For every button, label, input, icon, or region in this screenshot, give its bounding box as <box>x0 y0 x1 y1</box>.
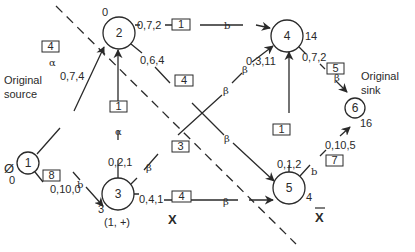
box-label-e56: 7 <box>331 154 337 166</box>
potential-node-4: 14 <box>305 30 317 42</box>
state-e13: b <box>77 179 83 190</box>
potential-node-5: 4 <box>306 191 312 203</box>
state-e56: b <box>311 166 317 177</box>
node-1-label: 1 <box>25 156 32 170</box>
edge-1-2 <box>37 47 104 154</box>
node-1-mark: Ø <box>4 161 14 176</box>
cut-line <box>56 6 296 244</box>
cut-set-x: X <box>168 212 177 227</box>
box-label-e12: 4 <box>47 40 53 52</box>
node-3-label-plus: (1, +) <box>104 216 130 228</box>
state-e32: α <box>115 126 122 137</box>
node-3-label: 3 <box>115 187 122 201</box>
triple-e13: 0,10,0 <box>50 183 81 195</box>
triple-e35: 0,4,1 <box>139 193 163 205</box>
state-e12: α <box>49 57 56 68</box>
edge-5-6 <box>300 127 350 176</box>
source-caption-line2: source <box>4 88 37 100</box>
potential-node-3: 3 <box>98 203 104 215</box>
sink-caption-line1: Original <box>361 70 399 82</box>
source-caption-line1: Original <box>4 74 42 86</box>
box-label-e13: 8 <box>48 169 54 181</box>
cut-set-xbar: X <box>315 210 324 225</box>
triple-e25: 0,6,4 <box>140 54 164 66</box>
sink-caption-line2: sink <box>361 84 381 96</box>
box-label-e25: 4 <box>181 74 187 86</box>
node-2-label: 2 <box>116 26 123 40</box>
box-label-e35: 4 <box>178 190 184 202</box>
box-label-e34: 3 <box>177 140 183 152</box>
state-e34-near3: β <box>146 162 152 173</box>
box-label-e24: 1 <box>178 18 184 30</box>
state-e46: β <box>334 72 340 83</box>
box-label-e54: 1 <box>278 123 284 135</box>
triple-e12: 0,7,4 <box>60 70 84 82</box>
nodes <box>17 17 365 210</box>
triple-e24: 0,7,2 <box>137 19 161 31</box>
network-flow-diagram: 4 8 1 1 4 3 4 1 5 7 0,7,4 0,10,0 0,2,1 0… <box>0 0 415 252</box>
triple-e56: 0,10,5 <box>325 139 356 151</box>
triple-e32: 0,2,1 <box>108 156 132 168</box>
node-4-label: 4 <box>284 29 291 43</box>
state-e34: β <box>242 64 248 75</box>
triple-e54: 0,1,2 <box>277 158 301 170</box>
state-e25-b: β <box>223 85 229 96</box>
triple-e46: 0,7,2 <box>302 51 326 63</box>
state-e25: β <box>224 133 230 144</box>
state-e24: b <box>224 20 230 31</box>
state-e35: β <box>223 196 229 207</box>
node-6-label: 6 <box>352 101 359 115</box>
box-label-e32: 1 <box>115 100 121 112</box>
triple-e34: 0,3,11 <box>246 55 276 67</box>
node-5-label: 5 <box>286 181 293 195</box>
potential-node-2: 0 <box>102 6 108 18</box>
potential-node-6: 16 <box>360 117 372 129</box>
